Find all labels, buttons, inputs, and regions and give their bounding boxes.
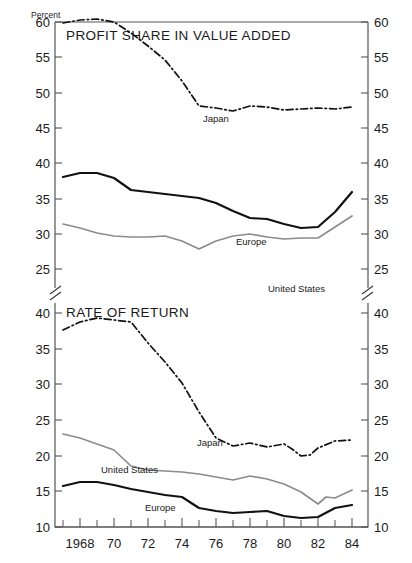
xtick-72: 72 — [141, 536, 155, 551]
bottom-ytick-40-left: 40 — [36, 306, 50, 321]
top-ytick-55-right: 55 — [374, 50, 388, 65]
top-series-united-states — [63, 216, 352, 249]
top-panel-frame — [55, 22, 368, 288]
xtick-74: 74 — [175, 536, 189, 551]
xtick-78: 78 — [243, 536, 257, 551]
top-ytick-60-right: 60 — [374, 15, 388, 30]
top-ytick-50-right: 50 — [374, 86, 388, 101]
top-ytick-25-right: 25 — [374, 262, 388, 277]
bottom-ytick-15-left: 15 — [36, 484, 50, 499]
xtick-82: 82 — [311, 536, 325, 551]
bottom-ytick-30-right: 30 — [374, 377, 388, 392]
top-ytick-30-right: 30 — [374, 227, 388, 242]
xaxis-minor-ticks — [63, 520, 335, 527]
bottom-series-europe — [63, 482, 352, 518]
bottom-ytick-20-left: 20 — [36, 449, 50, 464]
xtick-84: 84 — [345, 536, 359, 551]
top-label-japan: Japan — [203, 113, 229, 124]
panel-rate-of-return: 40 35 30 25 20 15 10 40 35 30 25 20 15 1… — [36, 303, 389, 551]
bottom-ytick-30-left: 30 — [36, 377, 50, 392]
top-series-europe — [63, 173, 352, 228]
bottom-panel-title: RATE OF RETURN — [66, 305, 189, 320]
top-ytick-35-right: 35 — [374, 192, 388, 207]
top-ytick-60-left: 60 — [36, 15, 50, 30]
top-ytick-30-left: 30 — [36, 227, 50, 242]
top-ytick-45-left: 45 — [36, 121, 50, 136]
bottom-label-united-states: United States — [101, 464, 158, 475]
bottom-panel-frame — [55, 303, 368, 527]
top-ytick-35-left: 35 — [36, 192, 50, 207]
top-right-ticks — [361, 22, 368, 269]
bottom-ytick-40-right: 40 — [374, 306, 388, 321]
top-ytick-55-left: 55 — [36, 50, 50, 65]
bottom-left-ticks — [55, 313, 62, 527]
xtick-1968: 1968 — [66, 536, 95, 551]
bottom-ytick-10-left: 10 — [36, 520, 50, 535]
top-panel-title: PROFIT SHARE IN VALUE ADDED — [66, 28, 291, 43]
top-label-united-states: United States — [268, 283, 325, 294]
bottom-ytick-25-left: 25 — [36, 413, 50, 428]
xaxis-major-ticks — [80, 518, 352, 527]
top-ytick-25-left: 25 — [36, 262, 50, 277]
bottom-series-japan — [63, 318, 352, 456]
bottom-ytick-20-right: 20 — [374, 449, 388, 464]
xtick-80: 80 — [277, 536, 291, 551]
top-left-ticks — [55, 22, 62, 269]
top-ytick-50-left: 50 — [36, 86, 50, 101]
xtick-70: 70 — [107, 536, 121, 551]
bottom-ytick-10-right: 10 — [374, 520, 388, 535]
bottom-ytick-15-right: 15 — [374, 484, 388, 499]
panel-profit-share: 60 55 50 45 40 35 30 25 60 55 50 45 40 3… — [36, 15, 389, 294]
bottom-right-ticks — [361, 313, 368, 527]
bottom-ytick-35-left: 35 — [36, 342, 50, 357]
bottom-label-japan: Japan — [197, 437, 223, 448]
top-ytick-40-left: 40 — [36, 156, 50, 171]
top-ytick-40-right: 40 — [374, 156, 388, 171]
bottom-label-europe: Europe — [145, 502, 176, 513]
chart-svg: Percent — [0, 0, 412, 563]
top-ytick-45-right: 45 — [374, 121, 388, 136]
xtick-76: 76 — [209, 536, 223, 551]
bottom-ytick-35-right: 35 — [374, 342, 388, 357]
bottom-ytick-25-right: 25 — [374, 413, 388, 428]
top-label-europe: Europe — [236, 236, 267, 247]
chart-figure: Percent — [0, 0, 412, 563]
